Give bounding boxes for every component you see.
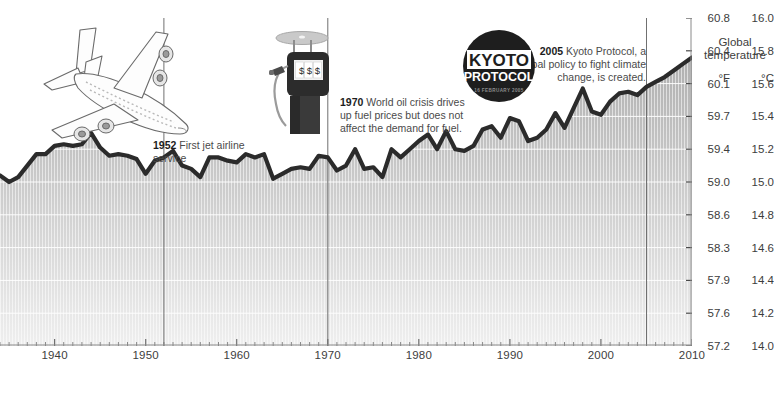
- y-tick-row: 57.214.0: [700, 340, 774, 352]
- y-tick-row: 59.015.0: [700, 176, 774, 188]
- airplane-illustration: [18, 12, 198, 144]
- stamp-line-3: 16 FEBRUARY 2005: [474, 88, 524, 93]
- y-tick-celsius: 14.6: [742, 242, 774, 254]
- pump-display-value: $ $ $: [299, 65, 321, 76]
- y-tick-celsius: 15.6: [742, 78, 774, 90]
- y-tick-celsius: 16.0: [742, 12, 774, 24]
- y-tick-celsius: 15.0: [742, 176, 774, 188]
- y-tick-row: 59.715.4: [700, 110, 774, 122]
- x-tick-label: 1970: [315, 349, 341, 361]
- y-tick-celsius: 15.4: [742, 110, 774, 122]
- x-tick-label: 1940: [41, 349, 67, 361]
- y-tick-fahrenheit: 59.7: [700, 110, 730, 122]
- x-tick-label: 1990: [497, 349, 523, 361]
- y-tick-row: 58.614.8: [700, 209, 774, 221]
- y-tick-row: 57.614.2: [700, 307, 774, 319]
- infographic-root: 19401950196019701980199020002010 Global …: [0, 0, 774, 394]
- fuel-pump-illustration: $ $ $: [266, 26, 332, 134]
- y-tick-row: 60.816.0: [700, 12, 774, 24]
- y-tick-fahrenheit: 58.3: [700, 242, 730, 254]
- x-tick-label: 2000: [588, 349, 614, 361]
- annotation-1970-year: 1970: [340, 96, 363, 108]
- y-tick-celsius: 15.8: [742, 45, 774, 57]
- y-tick-fahrenheit: 59.4: [700, 143, 730, 155]
- x-axis-labels: 19401950196019701980199020002010: [0, 349, 692, 369]
- x-tick-label: 1980: [406, 349, 432, 361]
- y-tick-celsius: 15.2: [742, 143, 774, 155]
- stamp-line-1: KYOTO: [469, 51, 529, 70]
- y-tick-fahrenheit: 57.2: [700, 340, 730, 352]
- stamp-line-2: PROTOCOL: [464, 70, 535, 84]
- x-tick-label: 1950: [132, 349, 158, 361]
- y-tick-row: 60.415.8: [700, 45, 774, 57]
- y-tick-row: 59.415.2: [700, 143, 774, 155]
- y-tick-celsius: 14.4: [742, 274, 774, 286]
- y-tick-fahrenheit: 60.1: [700, 78, 730, 90]
- annotation-2005-year: 2005: [540, 45, 563, 57]
- y-tick-celsius: 14.0: [742, 340, 774, 352]
- y-tick-fahrenheit: 60.4: [700, 45, 730, 57]
- y-tick-fahrenheit: 58.6: [700, 209, 730, 221]
- y-tick-fahrenheit: 59.0: [700, 176, 730, 188]
- kyoto-protocol-stamp: KYOTO PROTOCOL 16 FEBRUARY 2005: [459, 28, 543, 104]
- y-tick-row: 60.115.6: [700, 78, 774, 90]
- y-tick-celsius: 14.2: [742, 307, 774, 319]
- annotation-1970: 1970 World oil crisis drives up fuel pri…: [340, 96, 476, 136]
- y-tick-row: 57.914.4: [700, 274, 774, 286]
- y-axis-labels: 60.816.060.415.860.115.659.715.459.415.2…: [700, 95, 774, 355]
- y-tick-row: 58.314.6: [700, 242, 774, 254]
- y-tick-fahrenheit: 60.8: [700, 12, 730, 24]
- y-tick-celsius: 14.8: [742, 209, 774, 221]
- y-tick-fahrenheit: 57.9: [700, 274, 730, 286]
- y-tick-fahrenheit: 57.6: [700, 307, 730, 319]
- x-tick-label: 1960: [224, 349, 250, 361]
